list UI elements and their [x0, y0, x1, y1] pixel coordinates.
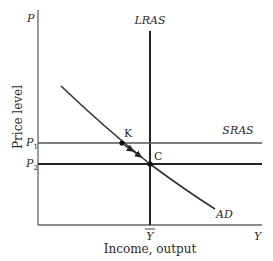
p1-label: P1: [25, 136, 38, 151]
adjustment-arrow-2: [133, 151, 141, 157]
p2-sub: 2: [33, 164, 37, 172]
x-axis-label: Income, output: [104, 242, 197, 256]
sras-label: SRAS: [222, 124, 254, 137]
p2-label: P2: [25, 157, 38, 172]
point-c-label: C: [154, 150, 162, 163]
y-axis-label: Price level: [11, 85, 25, 149]
point-k-label: K: [124, 127, 133, 140]
point-c: [147, 161, 152, 166]
x-axis-symbol: Y: [254, 230, 263, 243]
ad-as-diagram: P Y Price level Income, output LRAS SRAS…: [0, 0, 273, 261]
ad-curve: [61, 86, 215, 209]
lras-label: LRAS: [133, 14, 166, 27]
point-k: [119, 140, 124, 145]
ad-label: AD: [215, 208, 233, 221]
y-axis-symbol: P: [26, 12, 35, 25]
p1-sub: 1: [33, 143, 37, 151]
